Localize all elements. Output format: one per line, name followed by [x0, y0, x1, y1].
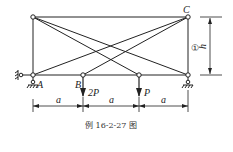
label-span-2: a: [109, 94, 114, 105]
support-right-roller-icon: [182, 77, 193, 88]
label-b: B: [75, 79, 81, 90]
figure-caption: 例 16-2-27 图: [85, 120, 137, 130]
label-height: h: [197, 44, 208, 49]
label-c: C: [183, 4, 190, 15]
node-b: [81, 73, 85, 77]
label-a: A: [36, 79, 44, 90]
label-load-2p: 2P: [88, 87, 99, 98]
load-arrow-p-icon: [136, 77, 142, 97]
node-a: [31, 73, 35, 77]
node-right: [186, 73, 190, 77]
diagonal-c-b: [83, 17, 188, 75]
diagonal-tl-node3: [33, 17, 139, 75]
node-top-left: [31, 15, 35, 19]
label-load-p: P: [143, 87, 150, 98]
truss-diagram: C A B 2P P ① h a a a 例 16-2-27 图: [0, 0, 233, 152]
label-span-1: a: [56, 94, 61, 105]
support-a-horizontal-icon: [15, 70, 31, 80]
label-span-3: a: [161, 94, 166, 105]
node-3: [137, 73, 141, 77]
node-c: [186, 15, 190, 19]
